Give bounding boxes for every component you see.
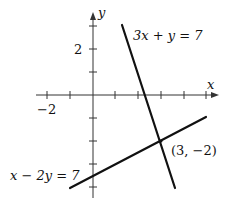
x-tick-label: −2: [37, 102, 56, 117]
y-axis-arrow-icon: [90, 12, 96, 20]
diagram-canvas: x y −2 2 3x + y = 7 x − 2y = 7 (3, −2): [0, 0, 227, 209]
y-tick-label: 2: [74, 42, 82, 57]
intersection-label: (3, −2): [171, 143, 217, 158]
x-axis-label: x: [207, 77, 215, 92]
x-axis-arrow-icon: [211, 92, 219, 98]
equation-label-x-minus-2y: x − 2y = 7: [10, 168, 80, 183]
y-axis-label: y: [97, 5, 106, 20]
line-3x-plus-y-eq-7: [122, 25, 175, 188]
intersection-point: [160, 140, 163, 143]
equation-label-3x-plus-y: 3x + y = 7: [133, 28, 203, 43]
